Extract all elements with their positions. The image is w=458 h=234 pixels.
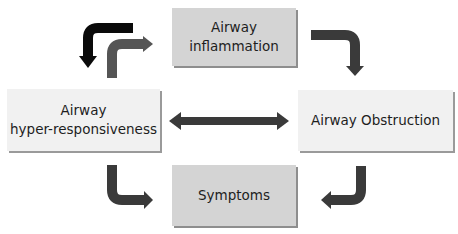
node-airway-hyperresponsiveness: Airway hyper-responsiveness xyxy=(7,89,160,151)
node-label-line1: Airway xyxy=(189,18,279,37)
node-airway-inflammation: Airway inflammation xyxy=(172,8,296,66)
node-label-line2: inflammation xyxy=(189,37,279,56)
node-airway-obstruction: Airway Obstruction xyxy=(298,90,453,151)
arrow-obstruction-to-symptoms xyxy=(321,166,361,209)
node-label-line1: Airway xyxy=(10,101,157,120)
arrow-inflammation-to-obstruction xyxy=(311,35,364,76)
arrow-double-headed xyxy=(169,112,289,130)
arrow-hyperresponsiveness-to-symptoms xyxy=(112,165,153,209)
arrow-hyperresponsiveness-to-inflammation xyxy=(112,36,153,78)
node-label: Symptoms xyxy=(198,186,270,205)
node-label: Airway Obstruction xyxy=(311,111,440,130)
node-symptoms: Symptoms xyxy=(172,165,296,226)
node-label-line2: hyper-responsiveness xyxy=(10,120,157,139)
